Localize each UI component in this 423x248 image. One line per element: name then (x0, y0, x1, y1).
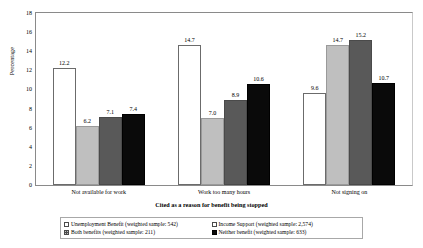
bar-value-label: 14.7 (333, 37, 344, 44)
y-axis-tick-label: 18 (16, 10, 32, 16)
bar[interactable] (201, 118, 224, 185)
bar[interactable] (122, 114, 145, 185)
bar-value-label: 9.6 (311, 85, 319, 92)
bar[interactable] (76, 126, 99, 185)
bar[interactable] (53, 68, 76, 185)
x-axis-category-label: Not signing on (287, 189, 412, 195)
bar-slot: 14.7 (178, 13, 201, 185)
bar[interactable] (349, 40, 372, 185)
legend-entry[interactable]: Neither benefit (weighted sample: 633) (212, 228, 360, 236)
bar-value-label: 15.2 (356, 32, 367, 39)
bar-value-label: 12.2 (59, 60, 70, 67)
x-axis-category-label: Not available for work (36, 189, 161, 195)
y-axis-tick-label: 0 (16, 182, 32, 188)
bar-slot: 8.9 (224, 13, 247, 185)
bar-value-label: 14.7 (184, 37, 195, 44)
y-axis-tick-label: 10 (16, 86, 32, 92)
bar-groups: 12.26.27.17.414.77.08.910.69.614.715.210… (36, 13, 412, 185)
bar-value-label: 10.6 (253, 76, 264, 83)
bar-slot: 7.0 (201, 13, 224, 185)
legend-entry[interactable]: Both benefits (weighted sample: 211) (64, 228, 212, 236)
y-axis-tick-label: 16 (16, 29, 32, 35)
bar-group: 14.77.08.910.6 (161, 13, 286, 185)
x-axis-title: Cited as a reason for benefit being stop… (0, 201, 423, 208)
bar[interactable] (99, 117, 122, 185)
bar-slot: 12.2 (53, 13, 76, 185)
bar[interactable] (372, 83, 395, 185)
legend-entry[interactable]: Unemployment Benefit (weighted sample: 5… (64, 220, 212, 228)
y-axis-tick-label: 8 (16, 106, 32, 112)
bar[interactable] (326, 45, 349, 185)
bar-slot: 7.1 (99, 13, 122, 185)
bar-value-label: 7.1 (106, 109, 114, 116)
legend-swatch-neither-benefit (212, 230, 217, 235)
bar-slot: 6.2 (76, 13, 99, 185)
bar-value-label: 8.9 (232, 92, 240, 99)
x-axis-category-label: Work too many hours (161, 189, 286, 195)
y-axis-tick-label: 12 (16, 67, 32, 73)
legend-label: Neither benefit (weighted sample: 633) (219, 228, 307, 236)
bar-slot: 10.6 (247, 13, 270, 185)
bar[interactable] (178, 45, 201, 185)
bar-slot: 14.7 (326, 13, 349, 185)
legend-label: Income Support (weighted sample: 2,574) (219, 220, 313, 228)
legend-label: Unemployment Benefit (weighted sample: 5… (71, 220, 178, 228)
bar-slot: 9.6 (303, 13, 326, 185)
y-axis-tick-label: 2 (16, 163, 32, 169)
y-axis-tick-label: 6 (16, 125, 32, 131)
bar[interactable] (224, 100, 247, 185)
bar[interactable] (247, 84, 270, 185)
bar-group: 12.26.27.17.4 (36, 13, 161, 185)
legend-label: Both benefits (weighted sample: 211) (71, 228, 155, 236)
legend-swatch-income-support (212, 222, 217, 227)
bar-slot: 10.7 (372, 13, 395, 185)
y-axis-tick-label: 14 (16, 48, 32, 54)
y-axis-tick-label: 4 (16, 144, 32, 150)
bar-value-label: 7.0 (209, 110, 217, 117)
bar-chart: Percentage 024681012141618 12.26.27.17.4… (0, 0, 423, 248)
bar[interactable] (303, 93, 326, 185)
chart-legend: Unemployment Benefit (weighted sample: 5… (60, 217, 363, 239)
x-axis-category-labels: Not available for workWork too many hour… (36, 189, 412, 195)
legend-entry[interactable]: Income Support (weighted sample: 2,574) (212, 220, 360, 228)
bar-group: 9.614.715.210.7 (287, 13, 412, 185)
bar-value-label: 7.4 (129, 106, 137, 113)
bar-slot: 15.2 (349, 13, 372, 185)
bar-value-label: 6.2 (83, 118, 91, 125)
legend-swatch-unemployment-benefit (64, 222, 69, 227)
bar-value-label: 10.7 (379, 75, 390, 82)
y-axis-tick-container: 024681012141618 (14, 12, 32, 186)
legend-swatch-both-benefits (64, 230, 69, 235)
bar-slot: 7.4 (122, 13, 145, 185)
